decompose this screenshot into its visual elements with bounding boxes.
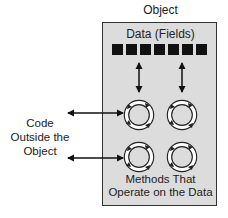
object-title: Object [102, 3, 219, 17]
fields-row [112, 44, 207, 55]
field-square [196, 44, 207, 55]
outside-code-label: Code Outside the Object [4, 116, 76, 158]
field-square [126, 44, 137, 55]
field-square [168, 44, 179, 55]
field-square [112, 44, 123, 55]
methods-label: Methods That Operate on the Data [102, 173, 219, 199]
outside-label-line2: Outside the [4, 130, 76, 144]
outside-label-line1: Code [4, 116, 76, 130]
field-square [154, 44, 165, 55]
methods-label-line2: Operate on the Data [102, 186, 219, 199]
methods-label-line1: Methods That [102, 173, 219, 186]
outside-label-line3: Object [4, 144, 76, 158]
field-square [182, 44, 193, 55]
data-fields-label: Data (Fields) [102, 27, 219, 41]
field-square [140, 44, 151, 55]
